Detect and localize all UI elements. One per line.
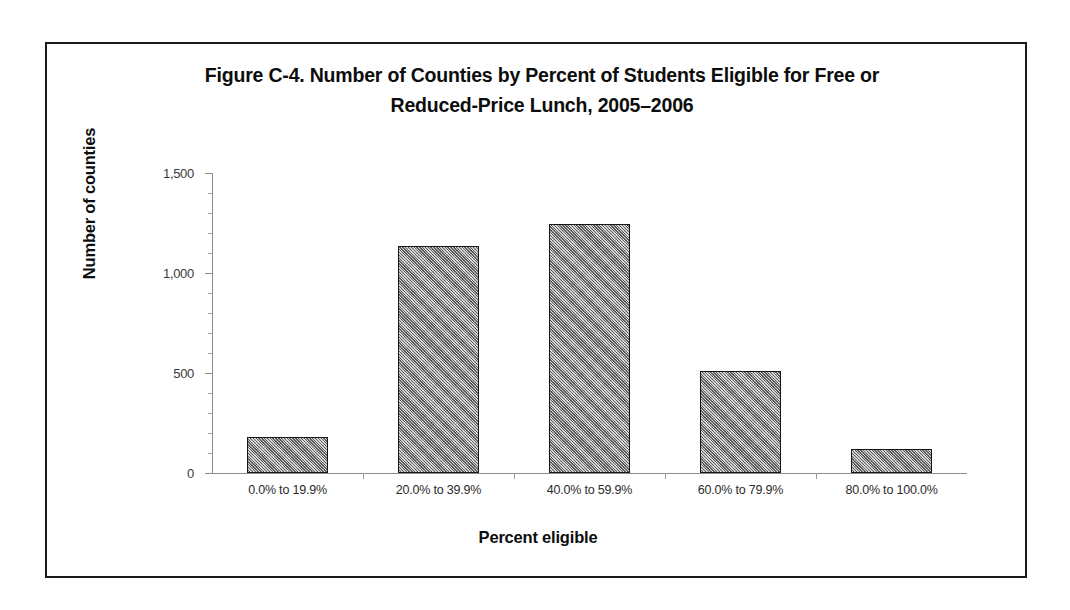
x-axis-tick xyxy=(665,473,666,479)
y-axis-minor-tick xyxy=(208,453,212,454)
y-axis-minor-tick xyxy=(208,433,212,434)
y-axis-title: Number of counties xyxy=(80,74,99,334)
bar xyxy=(851,449,931,473)
x-axis-category-label: 0.0% to 19.9% xyxy=(248,483,327,497)
bar xyxy=(549,224,629,473)
y-axis-tick: 500 xyxy=(205,373,212,374)
plot-area: 05001,0001,500 0.0% to 19.9%20.0% to 39.… xyxy=(212,173,967,473)
y-axis-minor-tick xyxy=(208,413,212,414)
y-axis-tick: 1,000 xyxy=(205,273,212,274)
y-axis-tick-label: 500 xyxy=(173,366,194,381)
y-axis-minor-tick xyxy=(208,313,212,314)
x-axis-tick xyxy=(816,473,817,479)
bar xyxy=(247,437,327,473)
x-axis-category-label: 80.0% to 100.0% xyxy=(845,483,937,497)
y-axis-tick: 0 xyxy=(205,473,212,474)
figure-root: Figure C-4. Number of Counties by Percen… xyxy=(0,0,1070,610)
bar xyxy=(700,371,780,473)
x-axis-tick xyxy=(514,473,515,479)
chart-title-line-2: Reduced-Price Lunch, 2005–2006 xyxy=(147,90,937,120)
chart-title: Figure C-4. Number of Counties by Percen… xyxy=(147,60,937,120)
x-axis-category-label: 60.0% to 79.9% xyxy=(698,483,783,497)
y-axis-minor-tick xyxy=(208,253,212,254)
figure-border: Figure C-4. Number of Counties by Percen… xyxy=(45,42,1027,578)
bar xyxy=(398,246,478,473)
y-axis-tick-label: 0 xyxy=(187,466,194,481)
y-axis-minor-tick xyxy=(208,193,212,194)
x-axis-category-label: 40.0% to 59.9% xyxy=(547,483,632,497)
y-axis-tick-label: 1,000 xyxy=(163,266,194,281)
x-axis-title: Percent eligible xyxy=(47,528,1029,547)
y-axis-tick-label: 1,500 xyxy=(163,166,194,181)
y-axis-minor-tick xyxy=(208,213,212,214)
x-axis-category-label: 20.0% to 39.9% xyxy=(396,483,481,497)
y-axis-tick: 1,500 xyxy=(205,173,212,174)
y-axis-minor-tick xyxy=(208,293,212,294)
y-axis-minor-tick xyxy=(208,353,212,354)
chart-title-line-1: Figure C-4. Number of Counties by Percen… xyxy=(147,60,937,90)
y-axis-minor-tick xyxy=(208,393,212,394)
y-axis-minor-tick xyxy=(208,233,212,234)
y-axis-line xyxy=(212,173,213,474)
y-axis-minor-tick xyxy=(208,333,212,334)
x-axis-tick xyxy=(363,473,364,479)
x-axis-line xyxy=(212,473,967,474)
